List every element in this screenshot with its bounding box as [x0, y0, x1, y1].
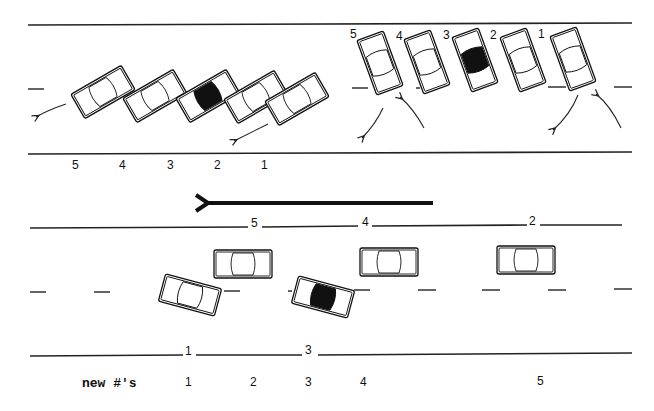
- top-left-label-2: 2: [214, 158, 221, 172]
- top-right-car-1: [550, 27, 596, 91]
- top-left-car-4: [123, 69, 187, 122]
- bottom-car-2-upper: [497, 246, 555, 274]
- upper-curb-label-2: 2: [529, 214, 536, 228]
- new-number-1: 1: [185, 375, 192, 389]
- bottom-car-1-lower: [158, 274, 221, 316]
- top-road-lower-curb: [28, 152, 632, 154]
- upper-curb-label-5: 5: [251, 216, 258, 230]
- new-number-2: 2: [250, 375, 257, 389]
- arrow-left-exit-2-icon: [234, 124, 268, 141]
- bottom-car-4-upper: [360, 248, 418, 276]
- top-left-label-3: 3: [167, 158, 174, 172]
- bottom-road-lower-curb: [30, 353, 632, 356]
- new-numbers-label: new #'s: [82, 376, 137, 391]
- top-left-label-1: 1: [261, 158, 268, 172]
- new-number-3: 3: [305, 375, 312, 389]
- top-left-car-5: [71, 65, 135, 118]
- diagram-svg: 5 4 3 2 1 5 4 3 2 1 5 4 2: [0, 0, 654, 411]
- parking-diagram: 5 4 3 2 1 5 4 3 2 1 5 4 2: [0, 0, 654, 411]
- top-left-label-5: 5: [72, 158, 79, 172]
- lower-curb-label-3: 3: [305, 343, 312, 357]
- arrow-car5-exit-icon: [362, 108, 383, 138]
- top-right-label-5: 5: [350, 27, 357, 41]
- arrow-left-exit-icon: [36, 104, 66, 117]
- top-right-label-4: 4: [396, 29, 403, 43]
- arrow-car5-enter-icon: [400, 97, 424, 128]
- upper-curb-label-4: 4: [362, 215, 369, 229]
- top-right-label-1: 1: [538, 27, 545, 41]
- new-number-4: 4: [360, 375, 367, 389]
- new-number-5: 5: [537, 374, 544, 388]
- arrow-car1-enter-icon: [596, 94, 621, 128]
- bottom-car-3-lower-highlighted: [291, 276, 354, 318]
- bottom-car-5-upper: [214, 250, 272, 278]
- top-left-label-4: 4: [119, 158, 126, 172]
- top-right-label-3: 3: [443, 28, 450, 42]
- lower-curb-label-1: 1: [185, 344, 192, 358]
- arrow-car1-exit-icon: [553, 95, 578, 130]
- top-road-upper-curb: [28, 23, 632, 25]
- top-right-label-2: 2: [490, 28, 497, 42]
